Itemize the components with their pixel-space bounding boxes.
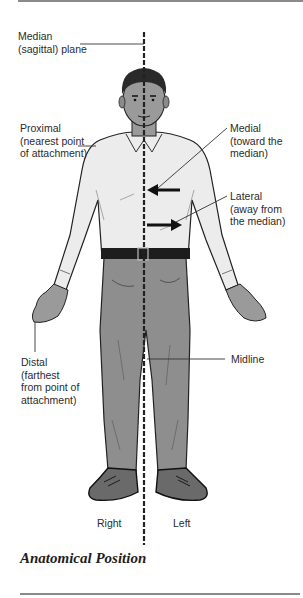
median-plane-label: Median (sagittal) plane — [18, 30, 87, 55]
medial-label: Medial (toward the median) — [230, 122, 283, 160]
lateral-label: Lateral (away from the median) — [230, 190, 285, 228]
midline-label: Midline — [231, 353, 264, 366]
proximal-label: Proximal (nearest point of attachment) — [20, 122, 87, 160]
right-side-label: Right — [97, 517, 122, 530]
distal-label: Distal (farthest from point of attachmen… — [21, 356, 79, 406]
anatomical-figure — [0, 0, 303, 598]
belt — [101, 248, 190, 260]
shoes — [89, 468, 207, 500]
bottom-rule — [20, 593, 300, 595]
left-side-label: Left — [173, 517, 191, 530]
figure-caption: Anatomical Position — [20, 550, 146, 567]
